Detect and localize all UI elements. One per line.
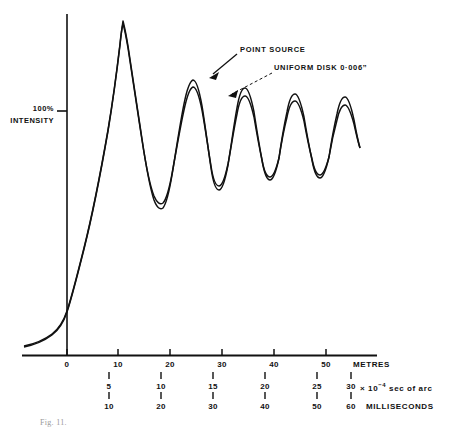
metres-tick-label-20: 20 [165,360,175,369]
metres-tick-label-10: 10 [113,360,123,369]
ms-tick-label-40: 40 [260,402,270,411]
ms-tick-label-20: 20 [156,402,166,411]
ms-tick-label-10: 10 [104,402,114,411]
milliseconds-tick-marks [109,392,351,399]
arcsec-tick-label-10: 10 [156,382,166,391]
annotation-point-source: POINT SOURCE [240,45,306,54]
arcsec-tick-label-15: 15 [208,382,218,391]
annotation-uniform-disk: UNIFORM DISK 0·006ˮ [274,63,367,72]
metres-tick-label-50: 50 [321,360,331,369]
arcsec-tick-marks [109,372,351,379]
axis-unit-arcsec: × 10−4 sec of arc [360,382,432,393]
figure-caption: Fig. 11. [40,418,67,427]
point-source-leader-arrow [209,54,237,80]
arcsec-tick-label-30: 30 [346,382,356,391]
arcsec-tick-label-25: 25 [312,382,322,391]
metres-tick-label-30: 30 [217,360,227,369]
ms-tick-label-30: 30 [208,402,218,411]
curve-uniform-disk [24,24,360,346]
ms-tick-label-60: 60 [346,402,356,411]
axis-unit-metres: METRES [353,360,390,369]
y-axis-name-label: INTENSITY [10,116,54,125]
y-axis-value-label: 100% [16,104,54,113]
arcsec-unit-suffix: sec of arc [389,384,432,393]
ms-tick-label-50: 50 [312,402,322,411]
axis-unit-milliseconds: MILLISECONDS [366,402,434,411]
arcsec-unit-prefix: × 10 [360,384,378,393]
arcsec-tick-label-5: 5 [107,382,112,391]
arcsec-tick-label-20: 20 [260,382,270,391]
arcsec-unit-exponent: −4 [378,382,386,388]
metres-tick-label-0: 0 [65,360,70,369]
metres-tick-label-40: 40 [269,360,279,369]
